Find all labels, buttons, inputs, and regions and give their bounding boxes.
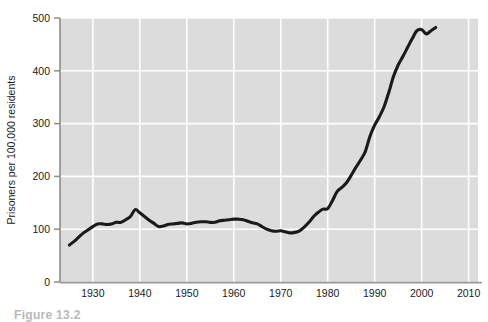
y-tick-label-200: 200 — [32, 170, 50, 182]
x-axis-tick-labels: 193019401950196019701980199020002010 — [81, 287, 480, 299]
x-tick-label-1990: 1990 — [363, 287, 387, 299]
x-tick-label-1980: 1980 — [316, 287, 340, 299]
y-tick-label-500: 500 — [32, 12, 50, 24]
figure-caption: Figure 13.2 — [14, 308, 81, 322]
x-tick-label-1940: 1940 — [128, 287, 152, 299]
y-axis-title: Prisoners per 100,000 residents — [5, 76, 17, 225]
y-tick-label-300: 300 — [32, 117, 50, 129]
y-tick-label-400: 400 — [32, 65, 50, 77]
x-tick-label-2000: 2000 — [410, 287, 434, 299]
x-tick-label-1950: 1950 — [175, 287, 199, 299]
y-axis-tick-labels: 0100200300400500 — [32, 12, 50, 288]
plot-area-background — [60, 18, 478, 282]
y-tick-label-0: 0 — [44, 276, 50, 288]
x-tick-label-1930: 1930 — [81, 287, 105, 299]
x-tick-label-1960: 1960 — [222, 287, 246, 299]
y-tick-label-100: 100 — [32, 223, 50, 235]
x-tick-label-1970: 1970 — [269, 287, 293, 299]
x-tick-label-2010: 2010 — [457, 287, 481, 299]
y-axis-ticks — [54, 18, 60, 282]
